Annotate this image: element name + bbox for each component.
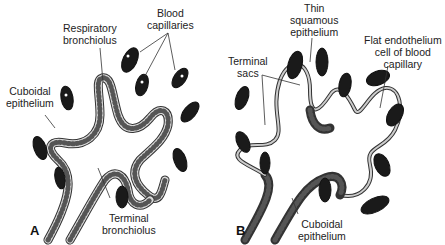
panel-letter-a: A: [30, 223, 39, 238]
label-blood-capillaries: Blood capillaries: [147, 7, 194, 31]
label-cuboidal-epithelium-b: Cuboidal epithelium: [298, 218, 346, 242]
label-terminal-sacs: Terminal sacs: [228, 55, 268, 79]
label-flat-endothelium: Flat endothelium cell of blood capillary: [364, 34, 442, 70]
label-terminal-bronchiolus: Terminal bronchiolus: [102, 212, 156, 236]
panel-b-alveoli: [237, 64, 400, 240]
panel-letter-b: B: [236, 223, 245, 238]
label-cuboidal-epithelium-a: Cuboidal epithelium: [6, 85, 54, 109]
label-respiratory-bronchiolus: Respiratory bronchiolus: [63, 22, 117, 46]
panel-a-capillaries: [30, 45, 202, 208]
label-thin-squamous-epithelium: Thin squamous epithelium: [290, 2, 338, 38]
